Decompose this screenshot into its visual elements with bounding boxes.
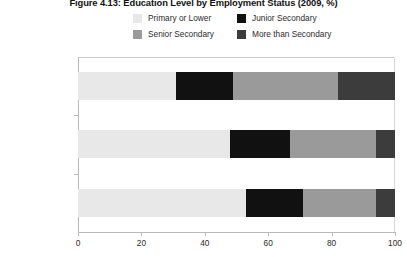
legend-label-senior-secondary: Senior Secondary <box>148 29 214 40</box>
x-axis-label: 80 <box>317 238 347 248</box>
plot-area: Formal SectorNotUnderemployedaEmployed 0… <box>78 57 395 232</box>
x-axis-tick <box>205 232 206 236</box>
legend-swatch-more-than-secondary <box>237 30 246 39</box>
x-axis-label: 20 <box>126 238 156 248</box>
x-axis-tick <box>268 232 269 236</box>
bar-segment[interactable] <box>376 189 395 217</box>
x-axis-label: 60 <box>253 238 283 248</box>
x-axis-label: 0 <box>63 238 93 248</box>
legend-item-primary-or-lower[interactable]: Primary or Lower <box>133 12 211 25</box>
bar-segment[interactable] <box>78 130 230 158</box>
legend-item-more-than-secondary[interactable]: More than Secondary <box>237 28 331 41</box>
bar-segment[interactable] <box>176 72 233 100</box>
x-axis-tick <box>141 232 142 236</box>
bar-row <box>78 174 395 232</box>
bar-segment[interactable] <box>303 189 376 217</box>
bar-segment[interactable] <box>230 130 290 158</box>
legend-swatch-senior-secondary <box>133 30 142 39</box>
chart-legend: Primary or Lower Junior Secondary Senior… <box>133 12 373 44</box>
x-axis-line <box>78 232 395 233</box>
legend-swatch-junior-secondary <box>237 14 246 23</box>
x-axis-tick <box>332 232 333 236</box>
x-axis-label: 100 <box>380 238 407 248</box>
bar-segment[interactable] <box>246 189 303 217</box>
figure-container: Figure 4.13: Education Level by Employme… <box>0 0 407 257</box>
x-axis-tick <box>78 232 79 236</box>
bar-segment[interactable] <box>290 130 376 158</box>
bar-segment[interactable] <box>233 72 338 100</box>
x-axis-label: 40 <box>190 238 220 248</box>
bar-segment[interactable] <box>376 130 395 158</box>
bar-segment[interactable] <box>338 72 395 100</box>
legend-label-primary-or-lower: Primary or Lower <box>148 13 211 24</box>
legend-label-junior-secondary: Junior Secondary <box>252 13 317 24</box>
bar-segment[interactable] <box>78 189 246 217</box>
y-axis-tick <box>74 115 78 116</box>
chart-title: Figure 4.13: Education Level by Employme… <box>0 0 407 9</box>
y-axis-tick <box>74 174 78 175</box>
stacked-bar[interactable] <box>78 130 395 158</box>
x-axis-tick <box>395 232 396 236</box>
legend-label-more-than-secondary: More than Secondary <box>252 29 331 40</box>
legend-item-junior-secondary[interactable]: Junior Secondary <box>237 12 317 25</box>
stacked-bar[interactable] <box>78 72 395 100</box>
stacked-bar[interactable] <box>78 189 395 217</box>
bar-row <box>78 115 395 173</box>
bar-row <box>78 57 395 115</box>
legend-item-senior-secondary[interactable]: Senior Secondary <box>133 28 214 41</box>
legend-swatch-primary-or-lower <box>133 14 142 23</box>
bar-segment[interactable] <box>78 72 176 100</box>
